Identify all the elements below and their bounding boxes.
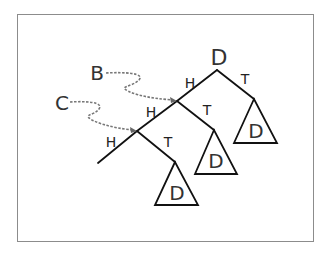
subtree-label-bottom: D bbox=[169, 181, 184, 205]
edge-label-b-h: H bbox=[146, 104, 157, 120]
edge-label-root-h: H bbox=[185, 75, 196, 91]
tree-diagram: D B C H T H T H T D D D bbox=[0, 0, 329, 257]
edge-label-c-h: H bbox=[106, 134, 117, 150]
subtree-label-right: D bbox=[248, 119, 263, 143]
pointer-c-arrow bbox=[70, 102, 133, 130]
root-label: D bbox=[211, 45, 228, 70]
subtree-label-middle: D bbox=[208, 149, 223, 173]
edge-root-h bbox=[177, 70, 217, 101]
pointer-b-label: B bbox=[90, 61, 104, 85]
edge-label-c-t: T bbox=[163, 134, 173, 150]
edge-label-b-t: T bbox=[202, 102, 212, 118]
edge-b-h bbox=[137, 101, 177, 131]
edge-label-root-t: T bbox=[240, 71, 250, 87]
pointer-b-arrow bbox=[106, 73, 173, 100]
pointer-c-label: C bbox=[55, 91, 69, 115]
edge-c-h bbox=[98, 131, 137, 163]
